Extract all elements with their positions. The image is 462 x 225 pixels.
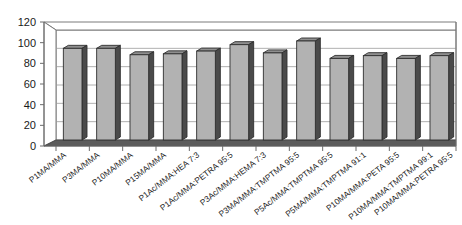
bar-front-face (130, 55, 149, 140)
bar-front-face (230, 45, 249, 140)
bar-side-face (349, 55, 354, 140)
bar (63, 45, 87, 140)
bar-side-face (115, 45, 120, 140)
bar (397, 55, 421, 140)
y-tick-label: 0 (30, 140, 36, 152)
bar (263, 50, 287, 140)
bar-side-face (415, 55, 420, 140)
bar (330, 55, 354, 140)
y-tick-label: 40 (24, 99, 36, 111)
bar (130, 52, 154, 140)
bar-front-face (197, 51, 216, 140)
y-tick-labels: 120 100 80 60 40 20 0 (18, 16, 36, 152)
bar-front-face (363, 56, 382, 140)
bar-front-face (330, 58, 349, 140)
x-tick-labels: P1MA/MMAP3MA/MMAP10MA/MMAP15MA/MMAP1Ac/M… (27, 149, 455, 221)
bar-chart: 120 100 80 60 40 20 0 P1MA/MMAP3MA/MMAP1… (0, 0, 462, 225)
y-tick-label: 100 (18, 37, 36, 49)
bar-side-face (282, 50, 287, 140)
bar-side-face (215, 48, 220, 140)
y-tick-label: 120 (18, 16, 36, 28)
bar-side-face (315, 38, 320, 140)
y-tick-label: 60 (24, 78, 36, 90)
bar-front-face (263, 53, 282, 140)
bar-front-face (163, 54, 182, 140)
bar-front-face (430, 56, 449, 140)
bar-side-face (449, 53, 454, 140)
plot-ceiling (44, 22, 456, 30)
bar-side-face (382, 53, 387, 140)
bar-front-face (63, 48, 82, 140)
bar (163, 51, 187, 140)
bar-front-face (397, 58, 416, 140)
plot-floor (44, 140, 456, 146)
bar-side-face (149, 52, 154, 140)
bar (197, 48, 221, 140)
y-tick-label: 20 (24, 119, 36, 131)
y-tick-label: 80 (24, 57, 36, 69)
bar-side-face (249, 42, 254, 140)
bar (430, 53, 454, 140)
bar (97, 45, 121, 140)
bar (363, 53, 387, 140)
bar-front-face (297, 41, 316, 140)
bar-front-face (97, 48, 116, 140)
plot-left-wall (44, 22, 56, 146)
bar (297, 38, 321, 140)
y-axis (40, 22, 44, 146)
bar-side-face (82, 45, 87, 140)
bar (230, 42, 254, 140)
x-axis-ticks (56, 146, 456, 151)
bar-side-face (182, 51, 187, 140)
chart-canvas: 120 100 80 60 40 20 0 P1MA/MMAP3MA/MMAP1… (0, 0, 462, 225)
